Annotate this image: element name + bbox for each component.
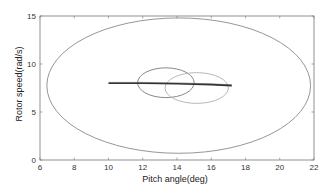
plot-area — [47, 18, 311, 153]
y-tick-label: 5 — [32, 108, 37, 117]
y-axis-label: Rotor speed(rad/s) — [14, 46, 24, 121]
x-tick-label: 18 — [241, 163, 250, 172]
x-tick-label: 16 — [207, 163, 216, 172]
x-tick-label: 12 — [138, 163, 147, 172]
y-axis-ticks: 051015 — [27, 12, 314, 165]
x-tick-label: 22 — [310, 163, 319, 172]
large-ellipse-series — [47, 18, 311, 153]
trajectory-series — [109, 83, 232, 85]
y-tick-label: 0 — [32, 156, 37, 165]
y-tick-label: 10 — [27, 60, 36, 69]
x-tick-label: 20 — [275, 163, 284, 172]
x-axis-ticks: 6810121416182022 — [38, 16, 319, 172]
axes-frame — [40, 16, 314, 160]
x-tick-label: 10 — [104, 163, 113, 172]
small-ellipse-2-series — [165, 73, 228, 104]
y-tick-label: 15 — [27, 12, 36, 21]
x-tick-label: 14 — [173, 163, 182, 172]
x-tick-label: 6 — [38, 163, 43, 172]
x-axis-label: Pitch angle(deg) — [142, 174, 208, 184]
x-tick-label: 8 — [72, 163, 77, 172]
chart-figure: 6810121416182022 051015 Pitch angle(deg)… — [0, 0, 335, 190]
